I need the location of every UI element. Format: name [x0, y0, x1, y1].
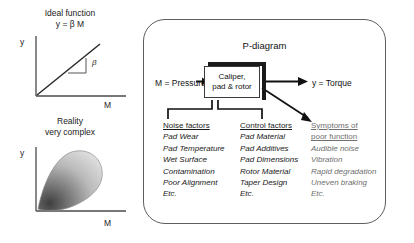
column-symptoms: Symptoms of poor function Audible noise … — [311, 120, 376, 200]
noise-factor-item: Etc. — [163, 188, 225, 199]
column-control-factors: Control factors Pad Material Pad Additiv… — [240, 120, 298, 200]
reality-function-plot — [28, 145, 132, 219]
reality-title-line1: Reality — [18, 116, 122, 127]
ideal-chart-y-axis-label: y — [20, 37, 24, 47]
column-noise-factors: Noise factors Pad Wear Pad Temperature W… — [163, 120, 225, 200]
ideal-function-title-line2: y = β M — [18, 19, 122, 30]
ideal-slope-line — [37, 44, 100, 95]
ideal-function-plot — [28, 34, 132, 102]
noise-factors-header: Noise factors — [163, 120, 225, 131]
symptom-item: Uneven braking — [311, 177, 376, 188]
diagram-canvas: Ideal function y = β M y M β Reality ver… — [0, 0, 414, 243]
noise-factor-item: Pad Temperature — [163, 143, 225, 154]
system-block-line2: pad & rotor — [212, 82, 252, 92]
symptoms-header-line1: Symptoms of — [311, 120, 376, 131]
control-factor-item: Rotor Material — [240, 166, 298, 177]
reality-chart-y-axis-label: y — [20, 148, 24, 158]
output-label: y = Torque — [312, 78, 352, 88]
noise-factor-item: Pad Wear — [163, 131, 225, 142]
ideal-slope-triangle — [68, 58, 86, 73]
reality-chart-title: Reality very complex — [18, 116, 122, 138]
noise-bracket — [168, 100, 212, 119]
noise-factor-item: Poor Alignment — [163, 177, 225, 188]
output-arrow-icon — [266, 74, 308, 88]
symptom-item: Audible noise — [311, 143, 376, 154]
control-factor-item: Taper Design — [240, 177, 298, 188]
reality-data-blob — [38, 151, 102, 211]
system-block: Caliper, pad & rotor — [204, 66, 260, 98]
block-shadow-right — [262, 62, 266, 100]
system-block-line1: Caliper, — [218, 72, 245, 82]
control-factor-item: Etc. — [240, 188, 298, 199]
control-bracket — [218, 100, 262, 119]
symptom-item: Rapid degradation — [311, 166, 376, 177]
noise-factor-item: Contamination — [163, 166, 225, 177]
control-factor-item: Pad Material — [240, 131, 298, 142]
reality-chart-x-axis-label: M — [104, 218, 111, 228]
ideal-function-title: Ideal function y = β M — [18, 8, 122, 30]
ideal-slope-beta-label: β — [92, 58, 97, 67]
control-factor-item: Pad Dimensions — [240, 154, 298, 165]
symptom-item: Vibration — [311, 154, 376, 165]
noise-factor-item: Wet Surface — [163, 154, 225, 165]
ideal-function-title-line1: Ideal function — [18, 8, 122, 19]
symptoms-header-line2: poor function — [311, 131, 376, 142]
symptom-item: Etc. — [311, 188, 376, 199]
control-factors-header: Control factors — [240, 120, 298, 131]
reality-title-line2: very complex — [18, 127, 122, 138]
control-factor-item: Pad Additives — [240, 143, 298, 154]
factor-brackets — [166, 100, 292, 120]
pdiagram-title: P-diagram — [143, 40, 386, 51]
